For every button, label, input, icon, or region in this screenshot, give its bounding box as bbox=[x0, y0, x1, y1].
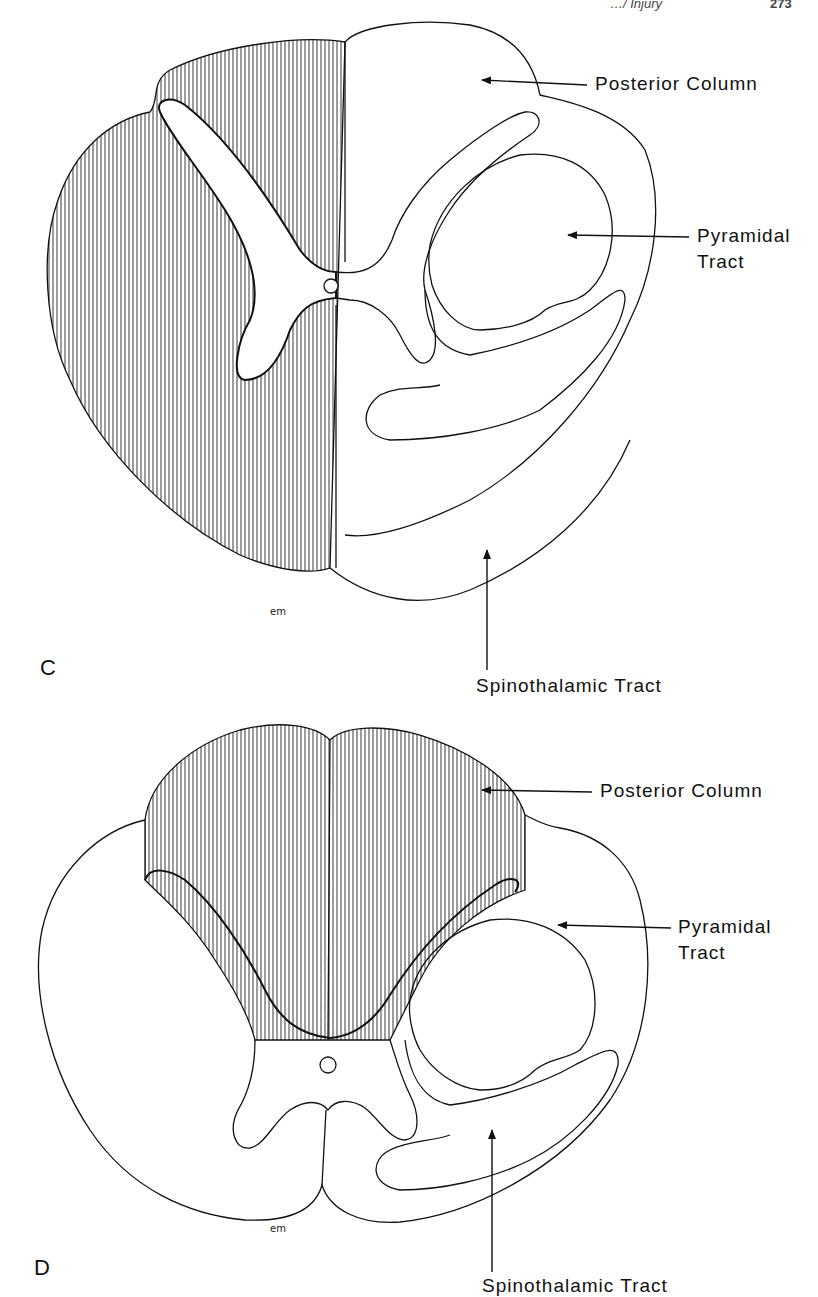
spinal-cord-diagram: …/ Injury 273 em C Posterior Column Pyra… bbox=[0, 0, 818, 1297]
grey-matter-right bbox=[336, 112, 539, 363]
label-spinothalamic-c: Spinothalamic Tract bbox=[476, 675, 662, 696]
label-pyramidal-d-line1: Pyramidal bbox=[678, 916, 771, 937]
panel-label-c: C bbox=[40, 655, 56, 680]
label-pyramidal-c-line2: Tract bbox=[697, 251, 745, 272]
central-canal-d bbox=[320, 1057, 336, 1073]
label-pyramidal-c-line1: Pyramidal bbox=[697, 225, 790, 246]
figure-d: em D Posterior Column Pyramidal Tract Sp… bbox=[34, 725, 771, 1296]
page-number: 273 bbox=[770, 0, 792, 11]
panel-label-d: D bbox=[34, 1255, 50, 1280]
label-posterior-column-c: Posterior Column bbox=[595, 73, 758, 94]
central-canal-c bbox=[324, 279, 338, 293]
arrow-pyramidal-tract-c bbox=[568, 235, 689, 237]
running-title: …/ Injury bbox=[610, 0, 664, 11]
artist-signature-c: em bbox=[270, 606, 286, 617]
figure-c: em C Posterior Column Pyramidal Tract Sp… bbox=[40, 22, 790, 696]
label-posterior-column-d: Posterior Column bbox=[600, 780, 763, 801]
cord-outline-right bbox=[345, 22, 656, 535]
spinothalamic-tract-d bbox=[376, 1040, 618, 1190]
arrow-posterior-column-c bbox=[482, 80, 587, 85]
label-pyramidal-d-line2: Tract bbox=[678, 942, 726, 963]
spinothalamic-tract-c bbox=[366, 290, 625, 440]
cord-outline-right-lower bbox=[330, 440, 630, 600]
page-header: …/ Injury 273 bbox=[610, 0, 792, 11]
anterior-median-fissure-d bbox=[322, 1110, 326, 1185]
artist-signature-d: em bbox=[270, 1223, 286, 1234]
label-spinothalamic-d: Spinothalamic Tract bbox=[482, 1275, 668, 1296]
hatched-posterior-columns-d bbox=[145, 725, 525, 1040]
arrow-pyramidal-tract-d bbox=[558, 925, 671, 928]
pyramidal-tract-c bbox=[429, 154, 613, 330]
